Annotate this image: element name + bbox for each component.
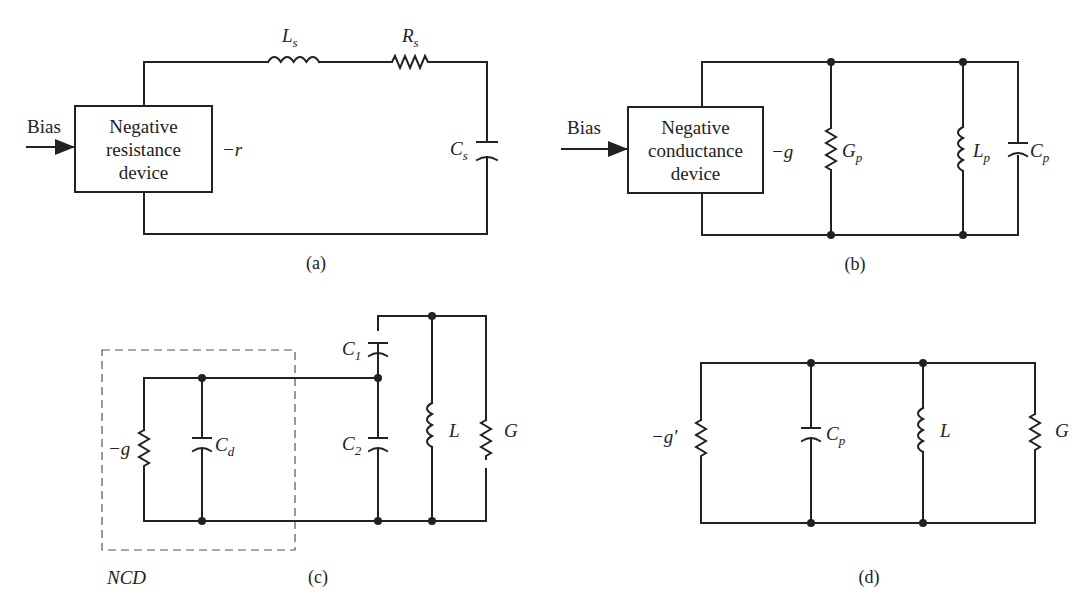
junction-dot — [827, 58, 835, 66]
wire-top-d — [701, 363, 1035, 420]
figure-c: NCD — [102, 312, 518, 588]
device-line-a-1: Negative — [109, 116, 178, 137]
capacitor-cp-icon — [1009, 143, 1027, 156]
label-c2: C2 — [342, 433, 362, 458]
label-c1: C1 — [342, 338, 361, 363]
inductor-lp-icon — [958, 127, 963, 171]
label-neg-g: −g — [108, 438, 130, 459]
label-g-d: G — [1055, 420, 1069, 441]
wire-bottom-d — [701, 456, 1035, 523]
figure-d: −g′ Cp L G (d) — [651, 359, 1069, 588]
device-value-a: −r — [222, 139, 243, 160]
junction-dot — [807, 359, 815, 367]
inductor-l-icon — [427, 403, 432, 447]
device-line-b-1: Negative — [661, 117, 730, 138]
junction-dot — [959, 58, 967, 66]
device-line-b-2: conductance — [648, 140, 743, 161]
label-cp-d: Cp — [826, 423, 846, 448]
junction-dot — [827, 231, 835, 239]
figure-a: Bias Negative resistance device −r Ls Rs… — [27, 25, 497, 274]
junction-dot — [198, 517, 206, 525]
caption-b: (b) — [845, 254, 866, 275]
junction-dot — [428, 517, 436, 525]
resistor-neg-g-icon — [139, 430, 149, 470]
wire-bottom-c — [144, 469, 486, 521]
junction-dot — [807, 519, 815, 527]
label-ls: Ls — [281, 25, 298, 50]
wire-top-left — [144, 62, 268, 106]
label-cd: Cd — [215, 434, 235, 459]
caption-d: (d) — [859, 567, 880, 588]
resistor-g-c-icon — [481, 420, 491, 459]
junction-dot — [198, 374, 206, 382]
caption-c: (c) — [308, 567, 328, 588]
wire-top-right — [431, 62, 487, 142]
label-l-d: L — [939, 420, 951, 441]
label-neg-g-prime: −g′ — [651, 426, 678, 447]
junction-dot — [374, 517, 382, 525]
junction-dot — [428, 312, 436, 320]
label-g-c: G — [504, 420, 518, 441]
device-line-a-3: device — [119, 162, 169, 183]
wire-top-c — [144, 378, 378, 430]
ncd-label: NCD — [106, 567, 146, 588]
resistor-g-d-icon — [1030, 414, 1040, 454]
resistor-gp-icon — [826, 128, 836, 170]
label-rs: Rs — [401, 25, 419, 50]
junction-dot — [919, 519, 927, 527]
label-gp: Gp — [842, 140, 863, 165]
inductor-l-d-icon — [918, 408, 923, 452]
device-line-b-3: device — [671, 163, 721, 184]
caption-a: (a) — [306, 253, 326, 274]
resistor-neg-g-prime-icon — [696, 420, 706, 460]
wire-bottom — [144, 157, 487, 234]
label-cp-b: Cp — [1030, 140, 1050, 165]
label-cs: Cs — [450, 138, 468, 163]
junction-dot — [919, 359, 927, 367]
label-lp: Lp — [972, 140, 991, 165]
device-line-a-2: resistance — [106, 139, 181, 160]
bias-label-b: Bias — [567, 117, 601, 138]
capacitor-cs-icon — [477, 142, 497, 160]
resistor-rs-icon — [392, 56, 431, 68]
junction-dot — [959, 231, 967, 239]
wire-bottom-b — [702, 156, 1018, 235]
figure-b: Bias Negative conductance device −g Gp L… — [562, 58, 1050, 275]
inductor-ls-icon — [268, 57, 319, 62]
wire-top-b — [702, 62, 1018, 143]
label-l-c: L — [448, 420, 460, 441]
bias-label-a: Bias — [27, 116, 61, 137]
device-value-b: −g — [771, 141, 793, 162]
junction-dot — [374, 374, 382, 382]
